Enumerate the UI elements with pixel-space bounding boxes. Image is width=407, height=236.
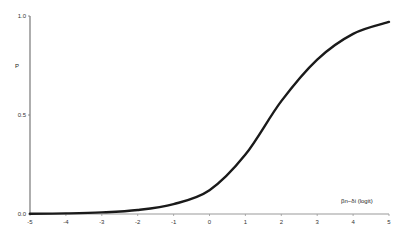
y-tick-label: 1.0 [18,13,27,19]
x-tick-label: -4 [63,219,69,225]
y-tick-label: 0.5 [18,112,27,118]
x-tick-label: -2 [135,219,141,225]
y-axis-label: P [15,63,19,69]
x-tick-label: 0 [208,219,212,225]
x-axis-label: βn−δi (logit) [341,198,373,204]
x-tick-label: -1 [171,219,177,225]
x-tick-label: -5 [27,219,33,225]
chart: -5-4-3-2-10123450.00.51.0 P βn−δi (logit… [0,0,407,236]
x-tick-label: -3 [99,219,105,225]
y-tick-label: 0.0 [18,211,27,217]
x-tick-label: 1 [244,219,248,225]
x-tick-label: 4 [351,219,355,225]
x-tick-label: 5 [387,219,391,225]
x-tick-label: 3 [316,219,320,225]
x-tick-label: 2 [280,219,284,225]
series-line-p [30,22,389,214]
